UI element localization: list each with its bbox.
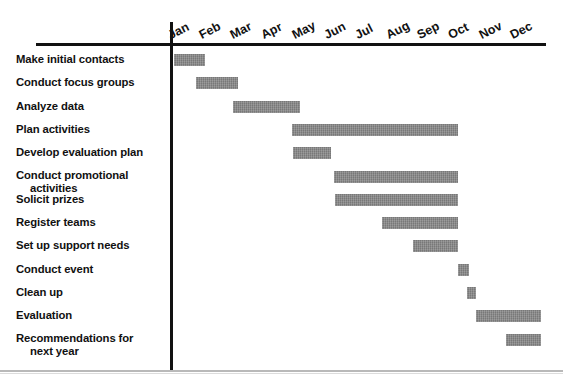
task-label-line1: Develop evaluation plan bbox=[16, 146, 143, 158]
task-row: Evaluation bbox=[0, 309, 563, 332]
task-label-conduct-focus-groups: Conduct focus groups bbox=[16, 76, 166, 90]
task-label-line1: Evaluation bbox=[16, 309, 72, 321]
task-row: Solicit prizes bbox=[0, 193, 563, 216]
month-label-jul: Jul bbox=[352, 21, 375, 42]
month-label-dec: Dec bbox=[508, 19, 535, 42]
task-row: Clean up bbox=[0, 286, 563, 309]
gantt-bar-conduct-focus-groups bbox=[196, 77, 238, 89]
month-label-sep: Sep bbox=[414, 19, 441, 42]
task-row: Analyze data bbox=[0, 100, 563, 123]
task-label-solicit-prizes: Solicit prizes bbox=[16, 193, 166, 207]
task-label-line1: Make initial contacts bbox=[16, 53, 124, 65]
task-label-line1: Conduct promotional bbox=[16, 169, 128, 181]
task-label-line1: Register teams bbox=[16, 216, 96, 228]
task-label-conduct-event: Conduct event bbox=[16, 263, 166, 277]
task-label-line2: next year bbox=[16, 345, 166, 359]
gantt-bar-solicit-prizes bbox=[335, 194, 458, 206]
gantt-bar-evaluation bbox=[476, 310, 541, 322]
gantt-bar-conduct-event bbox=[458, 264, 469, 276]
task-label-line1: Plan activities bbox=[16, 123, 90, 135]
month-axis-labels: JanFebMarAprMayJunJulAugSepOctNovDec bbox=[170, 0, 550, 44]
month-label-may: May bbox=[290, 18, 318, 42]
gantt-bar-set-up-support-needs bbox=[413, 240, 458, 252]
gantt-bar-recommendations-for bbox=[506, 334, 540, 346]
task-label-clean-up: Clean up bbox=[16, 286, 166, 300]
task-label-make-initial-contacts: Make initial contacts bbox=[16, 53, 166, 67]
task-row: Register teams bbox=[0, 216, 563, 239]
task-label-evaluation: Evaluation bbox=[16, 309, 166, 323]
gantt-bar-plan-activities bbox=[292, 124, 458, 136]
task-row: Plan activities bbox=[0, 123, 563, 146]
task-label-line1: Solicit prizes bbox=[16, 193, 84, 205]
task-row: Conduct focus groups bbox=[0, 76, 563, 99]
bottom-border-line-secondary bbox=[0, 373, 563, 374]
gantt-chart: JanFebMarAprMayJunJulAugSepOctNovDec Mak… bbox=[0, 0, 563, 391]
month-label-mar: Mar bbox=[228, 19, 254, 42]
task-label-line1: Set up support needs bbox=[16, 239, 130, 251]
task-row: Conduct event bbox=[0, 263, 563, 286]
task-row: Make initial contacts bbox=[0, 53, 563, 76]
task-rows: Make initial contactsConduct focus group… bbox=[0, 44, 563, 370]
month-label-aug: Aug bbox=[383, 18, 411, 42]
task-label-line1: Conduct event bbox=[16, 263, 93, 275]
task-label-line1: Analyze data bbox=[16, 100, 84, 112]
bottom-border-line bbox=[0, 370, 563, 372]
gantt-bar-conduct-promotional bbox=[334, 171, 458, 183]
task-label-recommendations-for: Recommendations fornext year bbox=[16, 332, 166, 359]
gantt-bar-register-teams bbox=[382, 217, 458, 229]
gantt-bar-clean-up bbox=[467, 287, 476, 299]
task-label-line1: Conduct focus groups bbox=[16, 76, 135, 88]
task-row: Recommendations fornext year bbox=[0, 333, 563, 356]
month-label-feb: Feb bbox=[197, 19, 223, 42]
month-label-jun: Jun bbox=[321, 19, 347, 42]
month-label-oct: Oct bbox=[446, 20, 471, 42]
gantt-bar-analyze-data bbox=[233, 101, 300, 113]
task-label-line1: Recommendations for bbox=[16, 332, 133, 344]
task-label-analyze-data: Analyze data bbox=[16, 100, 166, 114]
task-label-set-up-support-needs: Set up support needs bbox=[16, 239, 166, 253]
task-row: Set up support needs bbox=[0, 239, 563, 262]
task-label-register-teams: Register teams bbox=[16, 216, 166, 230]
month-label-nov: Nov bbox=[477, 19, 505, 42]
gantt-bar-develop-evaluation-plan bbox=[293, 147, 330, 159]
task-label-plan-activities: Plan activities bbox=[16, 123, 166, 137]
task-label-conduct-promotional: Conduct promotionalactivities bbox=[16, 169, 166, 196]
task-label-line1: Clean up bbox=[16, 286, 63, 298]
task-label-develop-evaluation-plan: Develop evaluation plan bbox=[16, 146, 166, 160]
task-row: Develop evaluation plan bbox=[0, 146, 563, 169]
task-row: Conduct promotionalactivities bbox=[0, 170, 563, 193]
month-label-apr: Apr bbox=[259, 20, 285, 42]
gantt-bar-make-initial-contacts bbox=[174, 54, 205, 66]
